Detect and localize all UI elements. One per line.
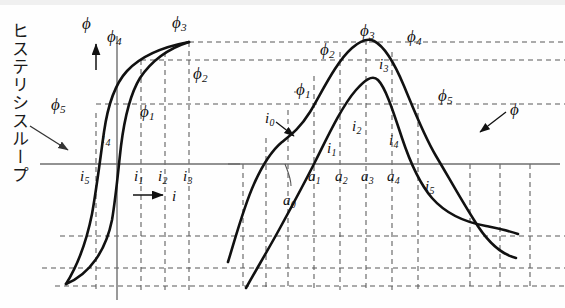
right-label-a3: a3 xyxy=(361,168,374,186)
left-label-i4: i4 xyxy=(101,130,110,148)
right-label-phi5: ϕ5 xyxy=(438,86,453,106)
right-label-i0: i0 xyxy=(265,110,274,128)
large-lobe-curve xyxy=(228,40,516,262)
left-label-phi3: ϕ3 xyxy=(172,13,187,33)
left-label-phi5: ϕ5 xyxy=(51,95,66,115)
left-label-i2: i2 xyxy=(158,168,167,186)
right-label-a2: a2 xyxy=(335,168,348,186)
right-label-a1: a1 xyxy=(308,168,321,186)
small-lobe-curve xyxy=(246,78,518,288)
right-label-a0: a0 xyxy=(283,192,296,210)
left-label-i1: i1 xyxy=(134,168,143,186)
left-label-phi1: ϕ1 xyxy=(140,102,155,122)
right-label-phi3: ϕ3 xyxy=(360,21,375,41)
right-label-i4: i4 xyxy=(389,132,398,150)
right-label-a4: a4 xyxy=(387,168,400,186)
left-label-phi2: ϕ2 xyxy=(193,64,208,84)
left-i-axis-label: i xyxy=(172,188,176,205)
phi-pointer-arrow xyxy=(480,112,506,132)
left-label-i5: i5 xyxy=(80,168,89,186)
hysteresis-loop-caption-jp: ヒステリシスループ xyxy=(9,22,30,184)
figure-canvas: ヒステリシスループ ϕ ϕ5 ϕ4 ϕ3 ϕ2 ϕ1 i4 i5 i1 i2 i… xyxy=(0,0,565,308)
right-label-i1: i1 xyxy=(327,140,336,158)
right-label-phi: ϕ xyxy=(510,100,519,120)
left-phi-axis-label: ϕ xyxy=(82,14,91,34)
right-label-i3: i3 xyxy=(379,56,388,74)
right-plot-gridlines xyxy=(243,40,530,290)
loop-lower-branch xyxy=(66,42,189,284)
right-label-phi2: ϕ2 xyxy=(320,40,335,60)
right-label-phi1: ϕ1 xyxy=(296,80,311,100)
left-label-phi4: ϕ4 xyxy=(107,27,122,47)
hysteresis-loop-curves xyxy=(66,42,189,284)
left-label-i3: i3 xyxy=(183,168,192,186)
figure-graphics xyxy=(0,0,565,308)
right-label-phi4: ϕ4 xyxy=(407,27,422,47)
right-label-i2: i2 xyxy=(352,118,361,136)
right-label-i5: i5 xyxy=(425,178,434,196)
hysteresis-pointer-arrow xyxy=(30,126,68,150)
loop-upper-branch xyxy=(66,42,189,284)
